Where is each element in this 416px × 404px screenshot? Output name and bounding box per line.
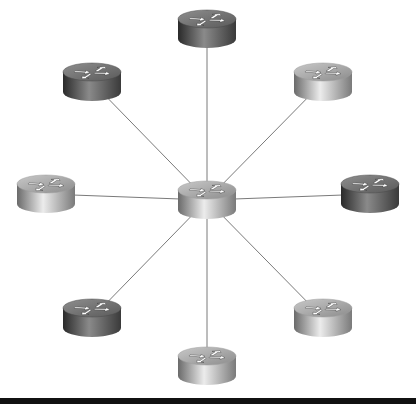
link-center-top-right <box>207 82 323 200</box>
router-top-right <box>294 63 352 101</box>
router-bottom <box>178 347 236 385</box>
router-top-left <box>63 63 121 101</box>
router-bottom-right <box>294 299 352 337</box>
router-right <box>341 175 399 213</box>
link-center-top-left <box>92 82 207 200</box>
router-left <box>17 175 75 213</box>
link-center-bottom-left <box>92 200 207 318</box>
link-center-bottom-right <box>207 200 323 318</box>
star-network-diagram <box>0 0 416 404</box>
router-top <box>178 10 236 48</box>
nodes-layer <box>17 10 399 385</box>
bottom-border-bar <box>0 398 416 404</box>
router-bottom-left <box>63 299 121 337</box>
router-center <box>178 181 236 219</box>
